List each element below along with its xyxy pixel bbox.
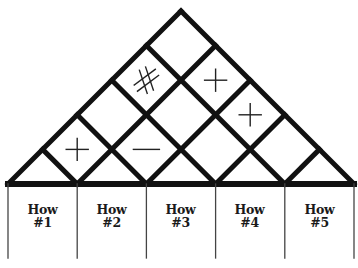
correlation-symbols [66, 64, 261, 161]
roof-right-edge [181, 11, 354, 184]
column-label-how-4: How #4 [215, 203, 284, 229]
column-label-number: #2 [77, 216, 146, 229]
positive-correlation-icon [66, 138, 88, 160]
positive-correlation-icon [239, 104, 261, 126]
column-label-how-3: How #3 [146, 203, 215, 229]
positive-correlation-icon [205, 69, 227, 91]
roof-grid-lines [8, 11, 354, 184]
column-label-how-1: How #1 [8, 203, 77, 229]
column-label-number: #5 [285, 216, 354, 229]
hash-stroke [136, 75, 161, 91]
roof-diagonal [43, 149, 78, 184]
hash-stroke [132, 69, 157, 85]
strong-positive-correlation-icon [129, 64, 163, 97]
column-label-number: #4 [215, 216, 284, 229]
column-label-number: #3 [146, 216, 215, 229]
column-label-how-2: How #2 [77, 203, 146, 229]
roof-diagonal [285, 149, 320, 184]
roof-left-edge [8, 11, 181, 184]
column-label-number: #1 [8, 216, 77, 229]
column-label-how-5: How #5 [285, 203, 354, 229]
